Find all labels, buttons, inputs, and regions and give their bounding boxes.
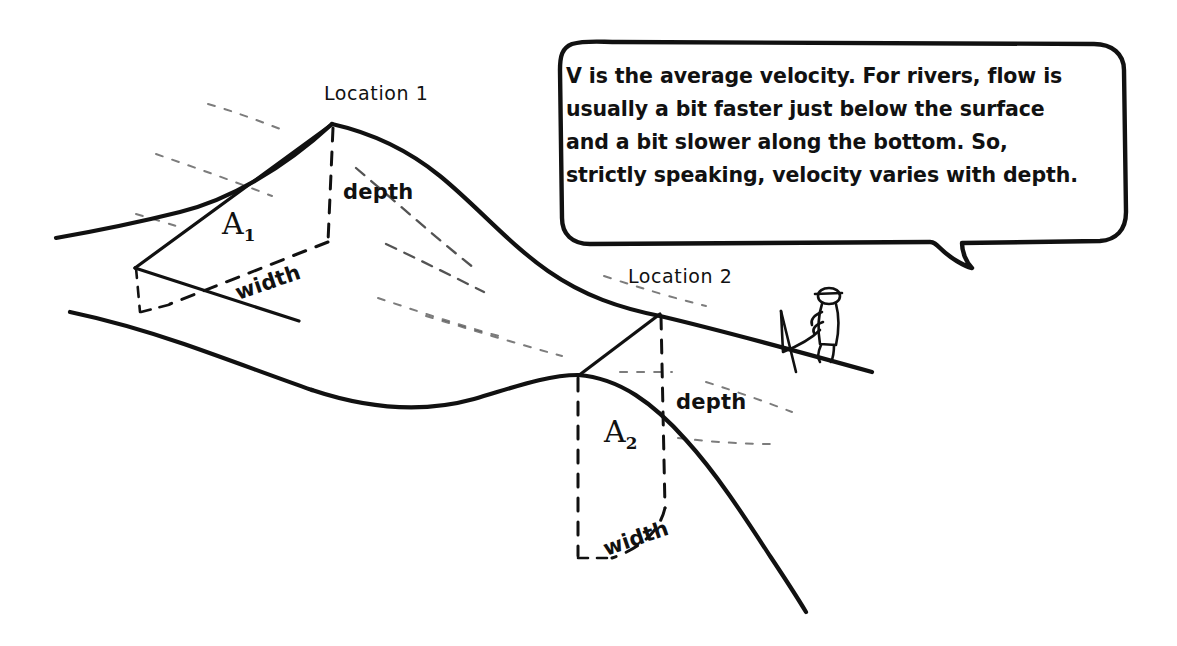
location-1-area-symbol: A [222, 206, 244, 241]
flow-line-2 [156, 154, 272, 196]
location-2-area-symbol: A [604, 414, 626, 449]
bubble-line-3: and a bit slower along the bottom. So, [566, 126, 1102, 159]
location-2-depth-label: depth [676, 390, 746, 414]
flow-line-6 [378, 298, 506, 338]
location-1-label: Location 1 [324, 82, 429, 104]
bubble-line-2: usually a bit faster just below the surf… [566, 93, 1102, 126]
flow-line-1 [208, 104, 288, 132]
figure-hat [815, 293, 842, 294]
location-1-area-subscript: 1 [244, 225, 256, 245]
bubble-line-4: strictly speaking, velocity varies with … [566, 159, 1102, 192]
location-2-label: Location 2 [628, 265, 733, 287]
far-bank-far-right [660, 316, 872, 372]
location-1-far-vertical [328, 128, 333, 242]
location-1-depth-label: depth [343, 180, 413, 204]
location-1-near-vertical [136, 268, 140, 312]
location-1-base-connector [141, 304, 172, 312]
near-bank-middle [312, 375, 578, 408]
figure-head [818, 288, 840, 304]
location-1-area-label: A1 [222, 206, 255, 245]
location-2-left-edge [578, 314, 660, 376]
location-2-area-subscript: 2 [626, 433, 638, 453]
flow-line-7 [426, 316, 562, 356]
flow-line-10 [678, 438, 772, 444]
near-bank-left [70, 312, 312, 390]
speech-bubble-text: V is the average velocity. For rivers, f… [566, 60, 1102, 192]
location-2-far-vertical [661, 316, 665, 508]
river-diagram-canvas: V is the average velocity. For rivers, f… [0, 0, 1177, 646]
far-bank-left [56, 124, 332, 238]
flow-line-5 [386, 244, 484, 292]
bubble-line-1: V is the average velocity. For rivers, f… [566, 60, 1102, 93]
location-2-area-label: A2 [604, 414, 637, 453]
location-1-left-edge [135, 124, 332, 268]
figure-body [819, 304, 839, 345]
